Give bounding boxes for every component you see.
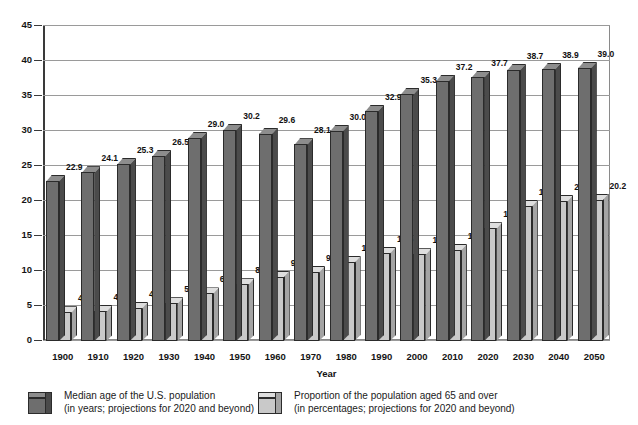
- bar-value-label: 37.2: [456, 63, 473, 72]
- bar-side-face: [59, 175, 65, 341]
- bar-median-age: [436, 81, 449, 341]
- y-axis-tick: [34, 165, 42, 166]
- bar-side-face: [378, 105, 384, 341]
- y-axis-tick: [34, 60, 42, 61]
- bar-side-face: [591, 62, 597, 341]
- bar-value-label: 32.9: [385, 93, 402, 102]
- bar-value-label: 30.2: [243, 112, 260, 121]
- bar-value-label: 29.0: [208, 120, 225, 129]
- bar-front-face: [223, 130, 236, 341]
- legend-line1: Proportion of the population aged 65 and…: [294, 390, 515, 403]
- bar-side-face: [496, 222, 502, 341]
- bar-side-face: [355, 256, 361, 341]
- bar-front-face: [400, 94, 413, 341]
- bar-median-age: [400, 94, 413, 341]
- bar-median-age: [152, 156, 165, 342]
- bar-value-label: 30.0: [350, 113, 367, 122]
- bar-side-face: [94, 166, 100, 341]
- bar-side-face: [390, 247, 396, 341]
- bars-plot-area: 4.122.94.324.14.725.35.426.56.829.08.130…: [43, 25, 610, 341]
- x-axis-tick-label: 2000: [397, 352, 437, 362]
- legend-line1: Median age of the U.S. population: [64, 390, 254, 403]
- bar-front-face: [542, 69, 555, 341]
- bar-side-face: [319, 266, 325, 341]
- legend-line2: (in percentages; projections for 2020 an…: [294, 403, 515, 416]
- bar-side-face: [307, 138, 313, 341]
- bar-front-face: [365, 111, 378, 341]
- bar-front-face: [507, 70, 520, 341]
- bar-median-age: [117, 164, 130, 341]
- x-axis-tick-label: 2020: [468, 352, 508, 362]
- bar-side-face: [272, 128, 278, 341]
- bar-side-face: [425, 248, 431, 341]
- x-axis-tick-label: 1980: [326, 352, 366, 362]
- bar-front-face: [152, 156, 165, 342]
- bar-median-age: [188, 138, 201, 341]
- bar-front-face: [117, 164, 130, 341]
- y-axis-tick: [34, 270, 42, 271]
- bar-side-face: [236, 124, 242, 341]
- x-axis-tick-label: 1930: [149, 352, 189, 362]
- y-axis-tick-label: 5: [10, 300, 32, 309]
- bar-side-face: [284, 271, 290, 341]
- y-axis-tick-label: 40: [10, 55, 32, 64]
- y-axis-tick-label: 10: [10, 265, 32, 274]
- x-axis-tick-label: 2010: [433, 352, 473, 362]
- bar-side-face: [413, 88, 419, 341]
- bar-front-face: [436, 81, 449, 341]
- bar-value-label: 35.3: [420, 76, 437, 85]
- bar-side-face: [165, 150, 171, 342]
- bar-median-age: [259, 134, 272, 341]
- y-axis-tick: [34, 305, 42, 306]
- bar-value-label: 38.7: [527, 52, 544, 61]
- chart-legend: Median age of the U.S. population (in ye…: [0, 388, 638, 425]
- x-axis-tick-label: 1910: [78, 352, 118, 362]
- bar-side-face: [177, 297, 183, 341]
- bar-median-age: [471, 77, 484, 341]
- bar-median-age: [365, 111, 378, 341]
- x-axis-tick-label: 1960: [255, 352, 295, 362]
- bar-value-label: 39.0: [598, 50, 615, 59]
- bar-side-face: [343, 125, 349, 341]
- bar-value-label: 38.9: [562, 51, 579, 60]
- bar-side-face: [603, 194, 609, 341]
- x-axis-tick-label: 2050: [574, 352, 614, 362]
- bar-side-face: [449, 75, 455, 341]
- bar-median-age: [294, 144, 307, 341]
- y-axis-tick-label: 35: [10, 90, 32, 99]
- bar-median-age: [507, 70, 520, 341]
- bar-side-face: [461, 244, 467, 341]
- bar-value-label: 20.2: [610, 182, 627, 191]
- y-axis-tick: [34, 200, 42, 201]
- bar-front-face: [578, 68, 591, 341]
- bar-value-label: 37.7: [491, 59, 508, 68]
- x-axis-tick-label: 1920: [114, 352, 154, 362]
- bar-side-face: [130, 158, 136, 341]
- bar-side-face: [484, 71, 490, 341]
- y-axis-tick-label: 15: [10, 230, 32, 239]
- legend-text-median-age: Median age of the U.S. population (in ye…: [64, 390, 254, 415]
- bar-side-face: [248, 278, 254, 341]
- bar-value-label: 25.3: [137, 146, 154, 155]
- bar-front-face: [330, 131, 343, 341]
- bar-front-face: [188, 138, 201, 341]
- x-axis-tick-label: 1940: [184, 352, 224, 362]
- bar-value-label: 26.5: [172, 138, 189, 147]
- legend-line2: (in years; projections for 2020 and beyo…: [64, 403, 254, 416]
- bar-front-face: [471, 77, 484, 341]
- y-axis-tick-label: 45: [10, 20, 32, 29]
- x-axis-title: Year: [297, 368, 357, 379]
- bar-front-face: [46, 181, 59, 341]
- y-axis-tick: [34, 235, 42, 236]
- bar-side-face: [201, 132, 207, 341]
- y-axis-tick: [34, 130, 42, 131]
- bar-median-age: [542, 69, 555, 341]
- y-axis-tick-label: 20: [10, 195, 32, 204]
- x-axis-tick-label: 1950: [220, 352, 260, 362]
- bar-value-label: 28.1: [314, 126, 331, 135]
- x-axis-tick-label: 2030: [503, 352, 543, 362]
- bar-median-age: [223, 130, 236, 341]
- light-cube-icon: [258, 392, 282, 414]
- bar-side-face: [520, 64, 526, 341]
- y-axis-tick: [34, 340, 42, 341]
